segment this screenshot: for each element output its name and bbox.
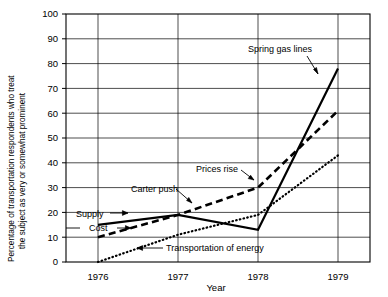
y-axis-label-line2: the subject as very or somewhat prominen…: [18, 92, 27, 249]
y-tick-label-0: 0: [53, 256, 58, 267]
x-tick-label-1977: 1977: [167, 271, 188, 282]
y-tick-label-70: 70: [47, 83, 58, 94]
annotation-carter-push: Carter push: [131, 184, 178, 194]
y-tick-label-60: 60: [47, 108, 58, 119]
annotation-spring-gas-lines: Spring gas lines: [248, 44, 313, 54]
y-tick-label-40: 40: [47, 157, 58, 168]
y-axis-label-line1: Percentage of transportation respondents…: [7, 75, 16, 262]
annotation-supply: Supply: [76, 209, 104, 219]
y-tick-label-90: 90: [47, 33, 58, 44]
y-axis-label: Percentage of transportation respondents…: [7, 75, 27, 262]
x-tick-label-1978: 1978: [247, 271, 268, 282]
annotation-prices-rise: Prices rise: [196, 164, 238, 174]
x-axis-tick-labels: 1976197719781979: [87, 271, 348, 282]
arrowhead-cost: [125, 226, 131, 231]
y-tick-label-20: 20: [47, 207, 58, 218]
arrowhead-transportation-of-energy: [137, 246, 143, 251]
y-tick-label-80: 80: [47, 58, 58, 69]
x-axis-title: Year: [206, 282, 225, 293]
series-line-supply: [98, 69, 338, 230]
y-tick-label-50: 50: [47, 132, 58, 143]
y-tick-label-30: 30: [47, 182, 58, 193]
y-tick-label-10: 10: [47, 232, 58, 243]
x-tick-label-1979: 1979: [327, 271, 348, 282]
y-axis-tickmarks: [62, 14, 66, 262]
chart-figure: Percentage of transportation respondents…: [0, 0, 388, 297]
x-tick-label-1976: 1976: [87, 271, 108, 282]
line-chart-canvas: Percentage of transportation respondents…: [0, 0, 388, 297]
annotation-cost: Cost: [89, 223, 108, 233]
arrowhead-carter-push: [187, 197, 192, 203]
y-tick-label-100: 100: [42, 8, 58, 19]
arrowhead-supply: [122, 211, 128, 216]
y-axis-tick-labels: 0102030405060708090100: [42, 8, 58, 267]
annotation-leaders: [66, 56, 318, 250]
horizontal-gridlines: [66, 39, 370, 237]
annotation-transportation-of-energy: Transportation of energy: [166, 243, 264, 253]
